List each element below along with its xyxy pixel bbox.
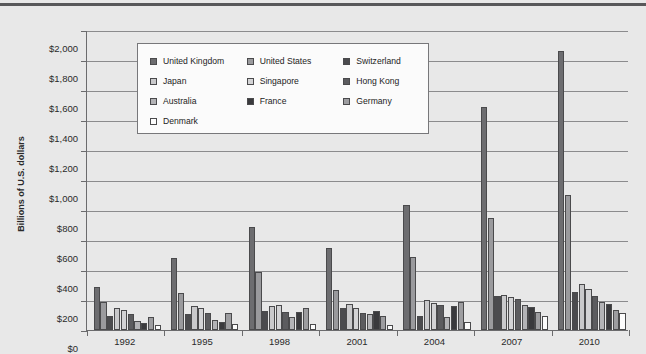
legend-label: Singapore [260, 76, 299, 86]
bar[interactable] [387, 325, 393, 330]
x-axis-tick [242, 330, 243, 336]
bar[interactable] [606, 304, 612, 330]
bar[interactable] [451, 306, 457, 330]
bar[interactable] [464, 322, 470, 330]
bar[interactable] [346, 304, 352, 330]
bar[interactable] [249, 227, 255, 330]
bar[interactable] [403, 205, 409, 330]
bar[interactable] [458, 302, 464, 331]
bar[interactable] [340, 308, 346, 331]
bar[interactable] [572, 292, 578, 330]
bar[interactable] [141, 323, 147, 330]
legend-row: United KingdomUnited StatesSwitzerland [138, 51, 428, 71]
bar[interactable] [417, 316, 423, 330]
legend-swatch-icon [343, 78, 350, 85]
bar[interactable] [303, 308, 309, 330]
x-axis-tick-label: 2001 [346, 336, 367, 347]
bar[interactable] [134, 321, 140, 330]
bar[interactable] [494, 296, 500, 331]
legend-item[interactable]: Hong Kong [331, 76, 428, 86]
bar[interactable] [171, 258, 177, 330]
bar[interactable] [219, 322, 225, 330]
bar[interactable] [535, 312, 541, 330]
bar[interactable] [205, 313, 211, 330]
y-axis-tick [81, 211, 87, 212]
legend-item[interactable]: France [235, 96, 332, 106]
legend-item[interactable]: Denmark [138, 116, 235, 126]
bar-chart: Billions of U.S. dollars $0$200$400$600$… [0, 14, 646, 351]
bar[interactable] [276, 305, 282, 330]
bar[interactable] [155, 325, 161, 330]
bar[interactable] [481, 107, 487, 330]
legend-item[interactable]: United Kingdom [138, 56, 235, 66]
bar[interactable] [431, 303, 437, 330]
bar[interactable] [333, 290, 339, 330]
bar[interactable] [114, 308, 120, 330]
bar[interactable] [262, 311, 268, 331]
y-axis-tick-label: $0 [22, 343, 78, 354]
y-axis-tick [81, 121, 87, 122]
bar[interactable] [367, 314, 373, 330]
bar[interactable] [191, 306, 197, 330]
bar[interactable] [599, 302, 605, 331]
legend-item[interactable]: Singapore [235, 76, 332, 86]
bar[interactable] [410, 257, 416, 331]
legend-swatch-icon [150, 118, 157, 125]
bar[interactable] [289, 317, 295, 330]
bar[interactable] [528, 307, 534, 330]
chart-legend: United KingdomUnited StatesSwitzerlandJa… [137, 43, 429, 134]
bar[interactable] [565, 195, 571, 330]
bar[interactable] [269, 306, 275, 330]
legend-label: Japan [163, 76, 186, 86]
bar[interactable] [255, 272, 261, 331]
bar[interactable] [373, 311, 379, 330]
legend-item[interactable]: Australia [138, 96, 235, 106]
bar[interactable] [212, 320, 218, 330]
bar[interactable] [310, 324, 316, 330]
bar[interactable] [198, 308, 204, 330]
bar[interactable] [225, 313, 231, 330]
x-axis-tick-label: 2004 [424, 336, 445, 347]
bar[interactable] [585, 289, 591, 330]
bar[interactable] [558, 51, 564, 330]
bar[interactable] [508, 297, 514, 330]
bar[interactable] [619, 313, 625, 330]
bar[interactable] [380, 316, 386, 330]
bar[interactable] [178, 293, 184, 331]
legend-swatch-icon [247, 58, 254, 65]
legend-item[interactable]: Japan [138, 76, 235, 86]
bar[interactable] [613, 310, 619, 330]
bar[interactable] [522, 305, 528, 330]
bar[interactable] [94, 287, 100, 331]
bar[interactable] [501, 295, 507, 330]
bar[interactable] [515, 299, 521, 330]
bar[interactable] [100, 302, 106, 330]
bar[interactable] [326, 248, 332, 330]
legend-item[interactable]: Germany [331, 96, 428, 106]
bar[interactable] [353, 308, 359, 331]
bar[interactable] [128, 314, 134, 330]
x-axis-tick [164, 330, 165, 336]
legend-item[interactable]: United States [235, 56, 332, 66]
y-axis-tick-label: $400 [22, 283, 78, 294]
bar[interactable] [232, 324, 238, 330]
bar[interactable] [185, 314, 191, 331]
bar[interactable] [107, 316, 113, 330]
top-rule [0, 3, 646, 6]
bar[interactable] [121, 310, 127, 330]
bar[interactable] [592, 296, 598, 331]
x-axis-tick [474, 330, 475, 336]
bar[interactable] [488, 218, 494, 331]
bar[interactable] [444, 317, 450, 331]
bar[interactable] [296, 312, 302, 330]
legend-row: AustraliaFranceGermany [138, 91, 428, 111]
legend-item[interactable]: Switzerland [331, 56, 428, 66]
bar[interactable] [579, 284, 585, 330]
bar[interactable] [424, 300, 430, 330]
bar[interactable] [148, 317, 154, 331]
bar[interactable] [282, 312, 288, 330]
bar[interactable] [542, 316, 548, 330]
y-axis-tick-label: $800 [22, 223, 78, 234]
bar[interactable] [437, 305, 443, 330]
bar[interactable] [360, 313, 366, 330]
